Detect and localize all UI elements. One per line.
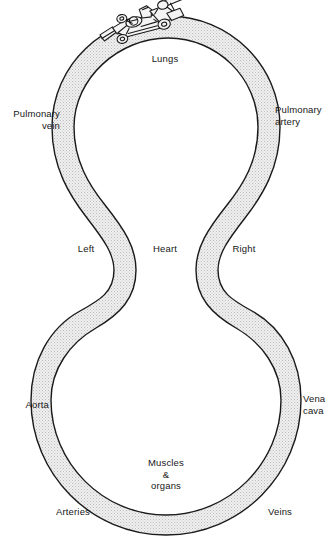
label-right: Right bbox=[220, 243, 268, 255]
label-muscles-and-organs: Muscles & organs bbox=[130, 457, 202, 492]
label-heart: Heart bbox=[141, 243, 189, 255]
label-lungs: Lungs bbox=[135, 53, 195, 65]
label-pulmonary-vein: Pulmonary vein bbox=[0, 108, 60, 131]
label-left: Left bbox=[62, 243, 110, 255]
label-arteries: Arteries bbox=[45, 506, 101, 518]
label-aorta: Aorta bbox=[0, 399, 49, 411]
label-veins: Veins bbox=[258, 506, 302, 518]
vessel-band-inner-outline bbox=[51, 38, 281, 515]
label-vena-cava: Vena cava bbox=[303, 393, 334, 416]
label-pulmonary-artery: Pulmonary artery bbox=[275, 104, 334, 127]
